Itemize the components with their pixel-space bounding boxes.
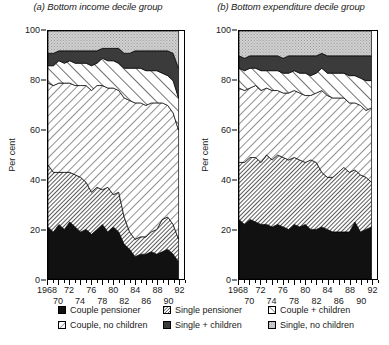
x-tick-mark-1978 [102,280,103,285]
y-tick-mark-40 [41,180,46,181]
legend-swatch-icon [163,321,171,329]
x-tick-mark-1975 [277,280,278,283]
plot-frame-b [238,30,378,280]
x-tick-label-1968: 1968 [228,285,248,295]
y-tick-mark-40 [232,180,237,181]
legend-swatch-icon [58,306,66,314]
x-tick-label-76: 76 [86,285,96,295]
y-tick-label-100: 100 [216,25,231,35]
x-tick-mark-1977 [288,280,289,283]
x-tick-mark-1986 [146,280,147,285]
legend-swatch-icon [268,321,276,329]
y-tick-label-60: 60 [30,125,40,135]
x-tick-mark-1970 [249,280,250,285]
y-axis-b: 020406080100 [191,30,237,280]
legend: Couple pensionerSingle pensionerCouple +… [0,305,389,339]
y-tick-label-80: 80 [221,75,231,85]
x-tick-mark-1993 [185,280,186,283]
legend-item-couple-no-children: Couple, no children [58,320,148,330]
x-tick-mark-1973 [266,280,267,283]
x-tick-mark-1981 [119,280,120,283]
plot-area-b [238,30,378,280]
x-tick-label-72: 72 [255,285,265,295]
x-tick-mark-1986 [339,280,340,285]
panel-a-title: (a) Bottom income decile group [0,1,196,12]
y-tick-label-20: 20 [30,225,40,235]
x-tick-label-72: 72 [64,285,74,295]
legend-label: Couple, no children [70,320,148,330]
y-axis-label-right: Per cent [200,138,210,172]
y-tick-mark-100 [232,30,237,31]
x-tick-mark-1983 [130,280,131,283]
y-tick-label-100: 100 [25,25,40,35]
x-tick-mark-1985 [141,280,142,283]
y-tick-mark-20 [232,230,237,231]
x-tick-mark-1974 [80,280,81,285]
x-tick-mark-1975 [86,280,87,283]
y-tick-mark-80 [232,80,237,81]
x-tick-mark-1979 [300,280,301,283]
legend-item-single-no-children: Single, no children [268,320,354,330]
x-tick-mark-1969 [53,280,54,283]
x-tick-label-76: 76 [278,285,288,295]
y-tick-label-0: 0 [226,275,231,285]
x-tick-mark-1987 [344,280,345,283]
x-tick-mark-1989 [163,280,164,283]
plot-area-a [47,30,185,280]
legend-item-couple-pensioner: Couple pensioner [58,305,141,315]
panel-income-decile: (a) Bottom income decile group 020406080… [0,0,196,300]
x-tick-mark-1974 [272,280,273,285]
panel-expenditure-decile: (b) Bottom expenditure decile group 0204… [193,0,389,300]
x-tick-mark-1989 [356,280,357,283]
legend-swatch-icon [268,306,276,314]
x-tick-mark-1981 [311,280,312,283]
x-tick-mark-1977 [97,280,98,283]
y-tick-label-20: 20 [221,225,231,235]
x-tick-label-88: 88 [345,285,355,295]
x-tick-label-84: 84 [130,285,140,295]
x-tick-label-80: 80 [300,285,310,295]
y-tick-mark-0 [41,280,46,281]
legend-item-single-pensioner: Single pensioner [163,305,242,315]
x-tick-mark-1991 [174,280,175,283]
x-tick-mark-1971 [64,280,65,283]
area-chart-a [48,31,184,279]
x-tick-mark-1987 [152,280,153,283]
y-tick-mark-60 [41,130,46,131]
x-tick-mark-1971 [255,280,256,283]
y-tick-label-40: 40 [30,175,40,185]
legend-item-couple-children: Couple + children [268,305,350,315]
x-tick-mark-1973 [75,280,76,283]
x-tick-mark-1982 [124,280,125,285]
legend-swatch-icon [163,306,171,314]
x-tick-label-1968: 1968 [37,285,57,295]
legend-label: Single pensioner [175,305,242,315]
y-tick-label-80: 80 [30,75,40,85]
legend-item-single-children: Single + children [163,320,242,330]
legend-label: Couple + children [280,305,350,315]
x-tick-mark-1990 [361,280,362,285]
legend-label: Couple pensioner [70,305,141,315]
y-tick-label-0: 0 [35,275,40,285]
x-tick-label-92: 92 [174,285,184,295]
x-tick-label-92: 92 [367,285,377,295]
x-tick-mark-1978 [294,280,295,285]
y-tick-mark-20 [41,230,46,231]
x-tick-mark-1993 [378,280,379,283]
figure-stacked-area-charts: (a) Bottom income decile group 020406080… [0,0,389,345]
area-band-single-no-children [239,31,371,58]
legend-swatch-icon [58,321,66,329]
x-tick-mark-1969 [244,280,245,283]
x-tick-mark-1979 [108,280,109,283]
x-tick-mark-1991 [367,280,368,283]
x-tick-mark-1982 [316,280,317,285]
y-tick-label-40: 40 [221,175,231,185]
y-tick-label-60: 60 [221,125,231,135]
legend-label: Single, no children [280,320,354,330]
x-tick-label-88: 88 [152,285,162,295]
x-tick-mark-1990 [168,280,169,285]
y-tick-mark-0 [232,280,237,281]
area-chart-b [239,31,377,279]
y-tick-mark-100 [41,30,46,31]
x-tick-mark-1970 [58,280,59,285]
